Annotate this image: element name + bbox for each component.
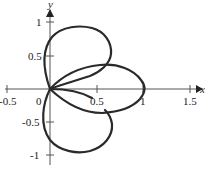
x-tick-label: -0.5 — [0, 95, 17, 107]
y-tick-label: 0.5 — [28, 50, 42, 62]
x-tick-label: 1.5 — [183, 95, 197, 107]
y-tick-label: -1 — [30, 149, 39, 161]
y-axis-label: y — [47, 0, 53, 10]
y-axis-arrow-icon — [46, 9, 54, 17]
y-tick-label: -0.5 — [22, 116, 40, 128]
x-tick-label: 0.5 — [90, 95, 104, 107]
y-tick-label: 1 — [36, 16, 42, 28]
x-axis-label: x — [199, 83, 205, 95]
origin-label: 0 — [36, 95, 42, 107]
polar-plot: -0.5 0.5 1 1.5 0 1 0.5 -0.5 -1 x y — [0, 0, 207, 169]
